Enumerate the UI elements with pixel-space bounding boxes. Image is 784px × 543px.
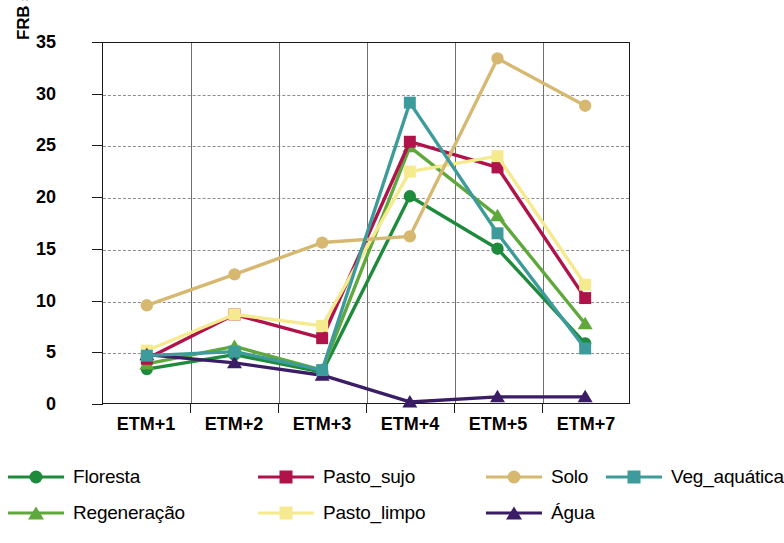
- legend-item-floresta[interactable]: Floresta: [8, 462, 140, 492]
- data-point-marker: [404, 97, 416, 109]
- data-point-marker: [141, 299, 153, 311]
- data-point-marker: [579, 100, 591, 112]
- data-point-marker: [316, 236, 328, 248]
- data-point-marker: [141, 350, 153, 362]
- data-point-marker: [229, 309, 241, 321]
- legend-marker-circle-icon: [508, 471, 521, 484]
- legend-marker-circle-icon: [30, 471, 43, 484]
- y-axis-tick-label: 10: [16, 290, 56, 311]
- legend-marker-triangle-icon: [506, 507, 522, 520]
- data-series-layer: [103, 43, 629, 403]
- data-point-marker: [579, 343, 591, 355]
- legend-item-pasto-sujo[interactable]: Pasto_sujo: [258, 462, 415, 492]
- y-axis-tick-label: 20: [16, 187, 56, 208]
- data-point-marker: [492, 227, 504, 239]
- y-axis-tick-label: 15: [16, 238, 56, 259]
- x-axis-tick-label: ETM+7: [557, 414, 616, 435]
- y-axis-tick-label: 35: [16, 32, 56, 53]
- legend-item-veg-aquática[interactable]: Veg_aquática: [606, 462, 784, 492]
- data-point-marker: [228, 268, 240, 280]
- legend-marker-square-icon: [280, 471, 293, 484]
- series-regeneração: [139, 140, 592, 376]
- series-line: [147, 147, 585, 370]
- series-line: [147, 156, 585, 350]
- x-axis-tick-mark: [454, 404, 455, 413]
- data-point-marker: [491, 243, 503, 255]
- x-axis-tick-label: ETM+1: [117, 414, 176, 435]
- plot-area: [102, 42, 630, 404]
- x-axis-tick-label: ETM+3: [293, 414, 352, 435]
- y-axis-tick-label: 5: [16, 342, 56, 363]
- legend-label: Floresta: [73, 466, 140, 488]
- legend-label: Solo: [551, 466, 588, 488]
- data-point-marker: [404, 230, 416, 242]
- legend-swatch: [606, 467, 662, 487]
- series-line: [147, 58, 585, 305]
- x-axis-tick-mark: [190, 404, 191, 413]
- legend-label: Regeneração: [73, 502, 185, 524]
- y-axis-tick-label: 30: [16, 83, 56, 104]
- x-axis-tick-label: ETM+4: [381, 414, 440, 435]
- legend-item-água[interactable]: Água: [486, 498, 595, 528]
- legend-swatch: [486, 467, 542, 487]
- data-point-marker: [579, 279, 591, 291]
- legend-swatch: [258, 503, 314, 523]
- x-axis-tick-mark: [542, 404, 543, 413]
- x-axis-tick-label: ETM+2: [205, 414, 264, 435]
- chart-legend: FlorestaRegeneraçãoPasto_sujoPasto_limpo…: [8, 462, 758, 538]
- legend-marker-square-icon: [628, 471, 641, 484]
- legend-label: Água: [551, 502, 595, 524]
- y-axis-tick-mark: [92, 404, 103, 405]
- legend-item-solo[interactable]: Solo: [486, 462, 588, 492]
- data-point-marker: [316, 364, 328, 376]
- legend-marker-square-icon: [280, 507, 293, 520]
- series-pasto-limpo: [141, 150, 591, 356]
- series-água: [139, 348, 592, 408]
- data-point-marker: [579, 292, 591, 304]
- data-point-marker: [492, 150, 504, 162]
- data-point-marker: [404, 190, 416, 202]
- legend-swatch: [258, 467, 314, 487]
- series-solo: [141, 52, 592, 311]
- x-axis-tick-mark: [366, 404, 367, 413]
- series-line: [147, 355, 585, 402]
- data-point-marker: [491, 52, 503, 64]
- legend-swatch: [8, 467, 64, 487]
- x-axis-tick-label: ETM+5: [469, 414, 528, 435]
- series-line: [147, 196, 585, 372]
- x-axis-tick-mark: [278, 404, 279, 413]
- legend-item-pasto-limpo[interactable]: Pasto_limpo: [258, 498, 425, 528]
- data-point-marker: [229, 346, 241, 358]
- legend-marker-triangle-icon: [28, 507, 44, 520]
- legend-label: Veg_aquática: [671, 466, 784, 488]
- data-point-marker: [316, 320, 328, 332]
- data-point-marker: [404, 166, 416, 178]
- series-line: [147, 103, 585, 370]
- legend-swatch: [486, 503, 542, 523]
- legend-label: Pasto_sujo: [323, 466, 415, 488]
- series-veg-aquática: [141, 97, 591, 376]
- legend-label: Pasto_limpo: [323, 502, 425, 524]
- legend-item-regeneração[interactable]: Regeneração: [8, 498, 185, 528]
- y-axis-tick-label: 0: [16, 394, 56, 415]
- legend-swatch: [8, 503, 64, 523]
- data-point-marker: [316, 332, 328, 344]
- y-axis-tick-label: 25: [16, 135, 56, 156]
- data-point-marker: [404, 136, 416, 148]
